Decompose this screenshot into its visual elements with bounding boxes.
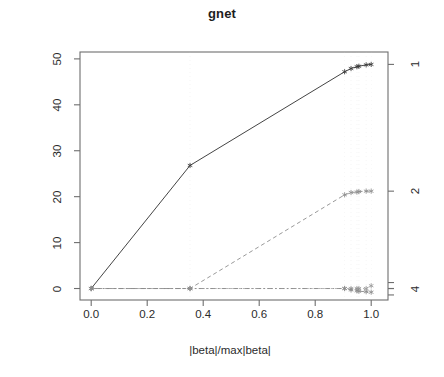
y-tick-label-3: 30 (48, 138, 66, 164)
point-marker-1-2 (342, 69, 347, 74)
coefficient-points (89, 62, 374, 295)
coefficient-paths (91, 64, 371, 292)
x-axis-label: |beta|/max|beta| (60, 344, 400, 356)
x-tick-label-5: 1.0 (354, 308, 388, 320)
right-tick-label-2: 2 (406, 180, 424, 202)
x-tick-label-2: 0.4 (186, 308, 220, 320)
point-marker-2-7 (369, 189, 374, 194)
chart-figure: gnet Standardized Coefficients |beta|/ma… (0, 0, 444, 377)
y-tick-label-2: 20 (48, 184, 66, 210)
point-marker-4-2 (342, 286, 347, 291)
y-tick-label-0: 0 (48, 276, 66, 302)
point-marker-3-7 (369, 283, 374, 288)
plot-box (80, 52, 388, 300)
x-tick-label-4: 0.8 (298, 308, 332, 320)
x-tick-label-3: 0.6 (242, 308, 276, 320)
point-marker-4-7 (369, 290, 374, 295)
series-path-1 (91, 64, 371, 288)
y-tick-label-5: 50 (48, 46, 66, 72)
y-tick-label-4: 40 (48, 92, 66, 118)
right-tick-label-4: 4 (406, 278, 424, 300)
series-path-4 (91, 289, 371, 293)
plot-canvas (0, 0, 444, 377)
right-tick-label-1: 1 (406, 53, 424, 75)
axis-ticks (74, 52, 394, 306)
x-tick-label-0: 0.0 (74, 308, 108, 320)
y-tick-label-1: 10 (48, 230, 66, 256)
plot-frame (80, 52, 388, 300)
series-path-2 (91, 191, 371, 288)
point-marker-2-2 (342, 192, 347, 197)
x-tick-label-1: 0.2 (130, 308, 164, 320)
chart-title: gnet (0, 6, 444, 21)
